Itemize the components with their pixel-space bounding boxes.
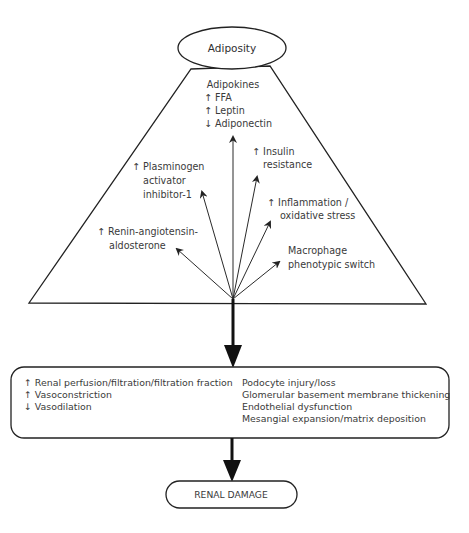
hemodynamic-item: ↑ Vasoconstriction <box>24 389 112 400</box>
raas-line: ↑ Renin-angiotensin- <box>97 226 198 237</box>
adipokines-line: ↑ Leptin <box>204 105 245 116</box>
arrow-pai1 <box>202 192 233 299</box>
macrophage-factor: Macrophage phenotypic switch <box>288 245 375 270</box>
arrow-macrophage <box>233 262 279 299</box>
pai1-line: activator <box>143 175 186 186</box>
renal-damage-node: RENAL DAMAGE <box>166 481 297 508</box>
mechanisms-box: ↑ Renal perfusion/filtration/filtration … <box>11 367 450 438</box>
insulin-line: ↑ Insulin <box>252 146 295 157</box>
inflammation-line: oxidative stress <box>280 210 355 221</box>
insulin-resistance-factor: ↑ Insulin resistance <box>252 146 312 170</box>
raas-factor: ↑ Renin-angiotensin- aldosterone <box>97 226 198 251</box>
structural-item: Mesangial expansion/matrix deposition <box>242 413 426 424</box>
adipokines-heading: Adipokines <box>207 79 259 90</box>
macrophage-line: Macrophage <box>288 245 347 256</box>
pai1-line: inhibitor-1 <box>143 189 192 200</box>
hemodynamic-item: ↑ Renal perfusion/filtration/filtration … <box>24 377 233 388</box>
structural-item: Podocyte injury/loss <box>242 377 336 388</box>
structural-item: Endothelial dysfunction <box>242 401 352 412</box>
arrow-to-mechanisms <box>224 299 242 368</box>
arrow-inflammation <box>233 222 270 299</box>
adiposity-node: Adiposity <box>178 27 286 69</box>
adiposity-label: Adiposity <box>208 42 256 54</box>
raas-line: aldosterone <box>109 240 166 251</box>
renal-damage-label: RENAL DAMAGE <box>194 489 268 500</box>
pai1-line: ↑ Plasminogen <box>132 161 204 172</box>
flow-diagram: Adiposity Adipokines ↑ FFA ↑ Leptin ↓ Ad… <box>0 0 469 533</box>
insulin-line: resistance <box>263 159 312 170</box>
macrophage-line: phenotypic switch <box>288 259 375 270</box>
arrow-raas <box>177 249 233 299</box>
arrow-to-outcome <box>223 438 241 482</box>
structural-item: Glomerular basement membrane thickening <box>242 389 450 400</box>
inflammation-line: ↑ Inflammation / <box>267 197 349 208</box>
adipokines-line: ↑ FFA <box>204 92 232 103</box>
arrow-insulin <box>233 177 257 299</box>
adipokines-factor: Adipokines ↑ FFA ↑ Leptin ↓ Adiponectin <box>204 79 272 129</box>
hemodynamic-item: ↓ Vasodilation <box>24 401 92 412</box>
inflammation-factor: ↑ Inflammation / oxidative stress <box>267 197 355 221</box>
pai1-factor: ↑ Plasminogen activator inhibitor-1 <box>132 161 204 200</box>
adipokines-line: ↓ Adiponectin <box>204 118 272 129</box>
